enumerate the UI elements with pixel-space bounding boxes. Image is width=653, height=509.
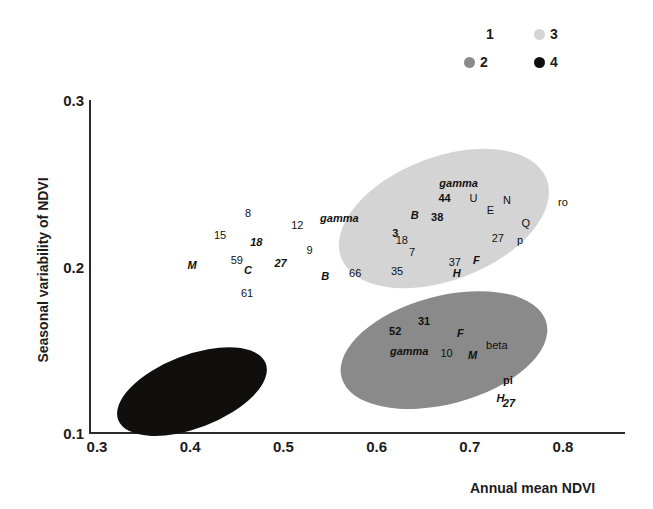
data-point-label: 52 [389, 326, 401, 337]
legend-entry-4[interactable]: 4 [534, 54, 558, 70]
data-point-label: 59 [231, 254, 243, 265]
y-tick-label: 0.2 [44, 258, 84, 275]
legend-label: 2 [480, 54, 488, 70]
x-tick-label: 0.7 [459, 438, 480, 455]
data-point-label: E [487, 204, 494, 215]
data-point-label: Q [521, 218, 530, 229]
data-point-label: 66 [349, 268, 361, 279]
data-point-label: 9 [306, 244, 312, 255]
legend-entry-3[interactable]: 3 [534, 26, 558, 42]
data-point-label: p [517, 234, 523, 245]
data-point-label: 38 [431, 211, 443, 222]
legend-entry-1[interactable]: 1 [470, 26, 494, 42]
data-point-label: 8 [245, 208, 251, 219]
scatter-plot-figure: Annual mean NDVI Seasonal variability of… [0, 0, 653, 509]
data-point-label: 27 [274, 258, 286, 269]
data-point-label: 27 [503, 398, 515, 409]
data-point-label: gamma [439, 178, 478, 189]
data-point-label: N [503, 194, 511, 205]
data-point-label: 61 [241, 288, 253, 299]
data-point-label: U [470, 193, 478, 204]
legend-swatch-icon [534, 57, 545, 68]
data-point-label: 44 [439, 193, 451, 204]
data-point-label: H [453, 268, 461, 279]
x-tick-label: 0.4 [180, 438, 201, 455]
x-tick-label: 0.6 [366, 438, 387, 455]
data-point-label: gamma [320, 213, 359, 224]
data-point-label: 12 [291, 219, 303, 230]
data-point-label: M [468, 349, 477, 360]
legend-label: 1 [486, 26, 494, 42]
data-point-label: F [473, 254, 480, 265]
legend-label: 3 [550, 26, 558, 42]
legend: 1324 [452, 26, 582, 80]
data-point-label: gamma [390, 346, 429, 357]
legend-swatch-icon [470, 29, 481, 40]
data-point-label: B [411, 209, 419, 220]
x-tick-label: 0.8 [553, 438, 574, 455]
legend-label: 4 [550, 54, 558, 70]
cluster-ellipse-4 [105, 329, 279, 454]
data-point-label: 35 [391, 266, 403, 277]
data-point-label: 27 [492, 233, 504, 244]
data-point-label: B [321, 271, 329, 282]
data-point-label: 18 [250, 236, 262, 247]
legend-swatch-icon [534, 29, 545, 40]
data-point-label: M [187, 259, 196, 270]
data-point-label: ro [558, 196, 568, 207]
data-point-label: pi [503, 374, 513, 385]
legend-entry-2[interactable]: 2 [464, 54, 488, 70]
data-point-label: 37 [449, 256, 461, 267]
data-point-label: 10 [440, 348, 452, 359]
y-axis-line [89, 100, 91, 434]
y-tick-label: 0.3 [44, 92, 84, 109]
legend-swatch-icon [464, 57, 475, 68]
x-axis-title: Annual mean NDVI [470, 480, 595, 496]
data-point-label: beta [486, 339, 507, 350]
data-point-label: 18 [396, 234, 408, 245]
data-point-label: C [244, 264, 252, 275]
data-point-label: 7 [409, 246, 415, 257]
data-point-label: 31 [418, 316, 430, 327]
x-tick-label: 0.3 [87, 438, 108, 455]
data-point-label: 15 [214, 229, 226, 240]
y-tick-label: 0.1 [44, 425, 84, 442]
data-point-label: F [457, 328, 464, 339]
x-tick-label: 0.5 [273, 438, 294, 455]
